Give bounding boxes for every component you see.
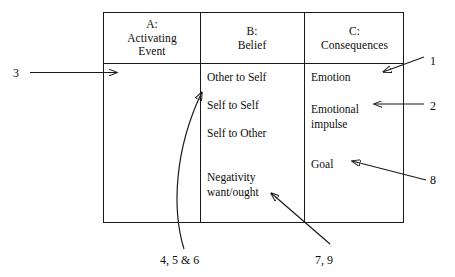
consequence-item-goal: Goal [311, 157, 333, 171]
column-header-c: C: Consequences [304, 25, 405, 52]
consequence-item-emotion: Emotion [311, 70, 351, 84]
header-row-divider [104, 63, 403, 64]
belief-item-self-to-other: Self to Other [207, 126, 266, 140]
column-header-b: B: Belief [200, 25, 304, 52]
belief-item-self-to-self: Self to Self [207, 98, 259, 112]
callout-label-2: 2 [430, 99, 436, 113]
callout-label-7-9: 7, 9 [315, 253, 333, 267]
callout-label-3: 3 [13, 66, 19, 80]
belief-item-negativity: Negativity [207, 170, 256, 184]
column-header-b-line2: Belief [200, 39, 304, 53]
column-header-a-line3: Event [104, 45, 200, 59]
column-header-c-line2: Consequences [304, 39, 405, 53]
belief-item-want-ought: want/ought [207, 185, 259, 199]
column-header-a: A: Activating Event [104, 18, 200, 59]
column-header-b-line1: B: [200, 25, 304, 39]
callout-label-1: 1 [430, 54, 436, 68]
column-header-a-line1: A: [104, 18, 200, 32]
consequence-item-impulse: impulse [311, 117, 347, 131]
consequence-item-emotional: Emotional [311, 102, 359, 116]
column-header-c-line1: C: [304, 25, 405, 39]
abc-model-table: A: Activating Event B: Belief C: Consequ… [103, 12, 404, 223]
belief-item-other-to-self: Other to Self [207, 70, 266, 84]
callout-label-8: 8 [430, 173, 436, 187]
diagram-canvas: A: Activating Event B: Belief C: Consequ… [0, 0, 455, 277]
callout-label-4-5-6: 4, 5 & 6 [160, 253, 199, 267]
column-header-a-line2: Activating [104, 32, 200, 46]
